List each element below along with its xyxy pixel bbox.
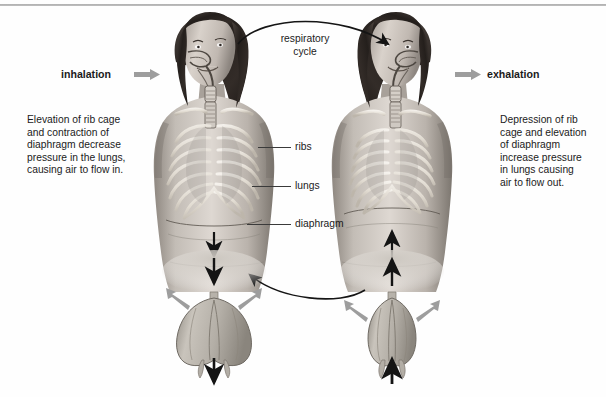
lung-model-inhalation	[162, 250, 266, 382]
label-diaphragm: diaphragm	[295, 218, 344, 230]
exhalation-arrow	[455, 69, 481, 80]
inhalation-description-line-1: Elevation of rib cage	[27, 114, 153, 127]
inhalation-label: inhalation	[61, 68, 111, 81]
inhalation-arrow	[134, 69, 160, 80]
label-ribs: ribs	[295, 141, 312, 153]
exhalation-description: Depression of rib cage and elevation of …	[500, 114, 604, 190]
inhalation-description-line-5: causing air to flow in.	[27, 164, 153, 177]
respiratory-cycle-illustration	[0, 0, 606, 397]
leader-line-lungs	[252, 186, 291, 187]
leader-line-ribs	[258, 147, 291, 148]
cycle-label-line-1: respiratory	[255, 33, 355, 46]
lung-model-exhalation	[340, 250, 444, 384]
exhalation-description-line-5: in lungs causing	[500, 164, 604, 177]
exhalation-description-line-6: air to flow out.	[500, 177, 604, 190]
diagram-canvas: respiratory cycle inhalation exhalation …	[0, 0, 606, 397]
cycle-label-line-2: cycle	[255, 46, 355, 59]
inhalation-description-line-2: and contraction of	[27, 127, 153, 140]
lung-model-body-right	[368, 298, 416, 366]
exhalation-description-line-2: cage and elevation	[500, 127, 604, 140]
leader-line-diaphragm	[247, 224, 291, 225]
exhalation-description-line-4: increase pressure	[500, 152, 604, 165]
inhalation-description-line-4: pressure in the lungs,	[27, 152, 153, 165]
inhalation-description-line-3: diaphragm decrease	[27, 139, 153, 152]
exhalation-description-line-3: of diaphragm	[500, 139, 604, 152]
respiratory-cycle-label: respiratory cycle	[255, 33, 355, 58]
inhalation-description: Elevation of rib cage and contraction of…	[27, 114, 153, 177]
exhalation-description-line-1: Depression of rib	[500, 114, 604, 127]
exhalation-label: exhalation	[487, 68, 539, 81]
label-lungs: lungs	[295, 180, 320, 192]
